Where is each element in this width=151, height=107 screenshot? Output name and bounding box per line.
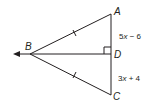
label-c: C [113, 91, 121, 102]
measure-ad: 5x − 6 [119, 32, 142, 41]
right-angle-marker [104, 47, 111, 54]
measure-dc: 3x + 4 [118, 74, 141, 83]
label-d: D [114, 49, 121, 60]
label-a: A [113, 6, 121, 17]
segment-bc [30, 54, 111, 95]
segment-ba [30, 14, 111, 54]
geometry-diagram: A B D C 5x − 6 3x + 4 [0, 0, 151, 107]
arrowhead-icon [13, 51, 20, 57]
label-b: B [25, 41, 32, 52]
